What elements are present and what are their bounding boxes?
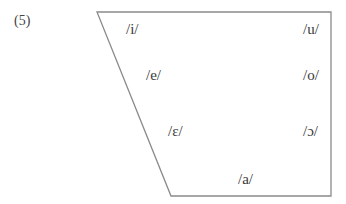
vowel-epsilon: /ɛ/ xyxy=(168,124,183,139)
vowel-e: /e/ xyxy=(146,68,161,83)
vowel-a: /a/ xyxy=(238,172,253,187)
trapezoid-outline xyxy=(97,12,331,196)
vowel-open-o: /ɔ/ xyxy=(303,124,318,139)
vowel-i: /i/ xyxy=(126,22,139,37)
vowel-u: /u/ xyxy=(303,22,319,37)
vowel-trapezoid xyxy=(0,0,346,204)
vowel-o: /o/ xyxy=(303,68,319,83)
